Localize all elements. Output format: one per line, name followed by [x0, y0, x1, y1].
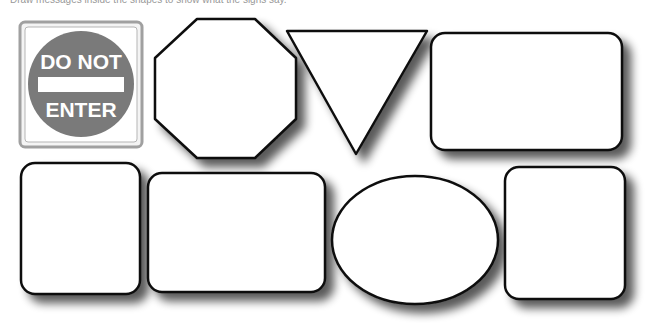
enter-text: ENTER	[45, 98, 116, 121]
rect-bottom-wide-blank-sign	[148, 173, 325, 292]
do-not-text: DO NOT	[40, 50, 122, 73]
rect-top-right-blank-sign	[431, 33, 622, 150]
octagon-blank-sign	[155, 19, 296, 158]
triangle-blank-sign	[287, 31, 427, 154]
signs-canvas: DO NOT ENTER	[0, 0, 651, 323]
ellipse-blank-sign	[332, 176, 498, 304]
do-not-enter-sign: DO NOT ENTER	[20, 22, 142, 147]
rect-bottom-left-blank-sign	[21, 163, 140, 294]
rect-bottom-right-blank-sign	[505, 167, 625, 299]
